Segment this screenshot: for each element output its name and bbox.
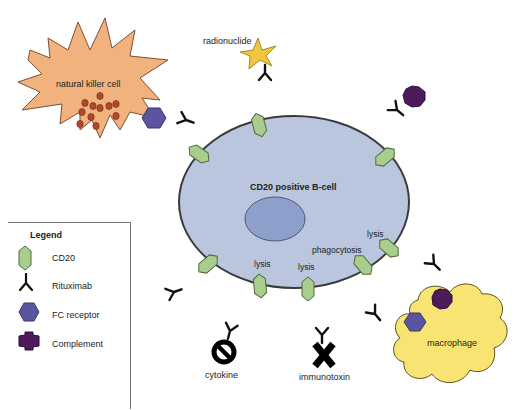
- rituximab-icon: [425, 255, 444, 274]
- macrophage-label: macrophage: [427, 338, 477, 348]
- b-cell-label: CD20 positive B-cell: [250, 182, 337, 192]
- lysis-label: lysis: [254, 259, 271, 269]
- immunotoxin-icon: [315, 344, 333, 366]
- radionuclide-label: radionuclide: [203, 36, 252, 46]
- legend-label: Rituximab: [52, 281, 92, 291]
- rituximab-icon: [366, 305, 385, 324]
- rituximab-icon: [222, 323, 237, 341]
- complement-icon: [432, 289, 452, 309]
- legend-item-rituximab: Rituximab: [18, 273, 128, 299]
- cytokine-icon: [214, 342, 234, 362]
- rituximab-icon: [18, 273, 44, 299]
- fc-receptor-icon: [18, 302, 44, 328]
- legend-label: FC receptor: [52, 310, 100, 320]
- cd20-icon: [18, 245, 44, 271]
- phagocytosis-label: phagocytosis: [312, 245, 362, 255]
- legend-item-complement: Complement: [18, 331, 128, 357]
- lysis-label: lysis: [298, 262, 315, 272]
- lysis-label: lysis: [367, 229, 384, 239]
- rituximab-icon: [165, 284, 183, 300]
- complement-icon: [403, 86, 425, 107]
- legend: Legend CD20 Rituximab FC receptor Comple…: [8, 222, 131, 409]
- rituximab-icon: [259, 65, 271, 80]
- rituximab-icon: [316, 328, 328, 343]
- legend-title: Legend: [30, 230, 62, 240]
- cytokine-label: cytokine: [205, 370, 238, 380]
- complement-icon: [18, 331, 44, 357]
- rituximab-icon: [388, 101, 407, 120]
- legend-item-fc-receptor: FC receptor: [18, 302, 128, 328]
- nk-cell-label: natural killer cell: [56, 79, 121, 89]
- legend-label: CD20: [52, 253, 75, 263]
- rituximab-icon: [177, 112, 195, 128]
- legend-item-cd20: CD20: [18, 245, 128, 271]
- legend-label: Complement: [52, 339, 103, 349]
- immunotoxin-label: immunotoxin: [299, 372, 350, 382]
